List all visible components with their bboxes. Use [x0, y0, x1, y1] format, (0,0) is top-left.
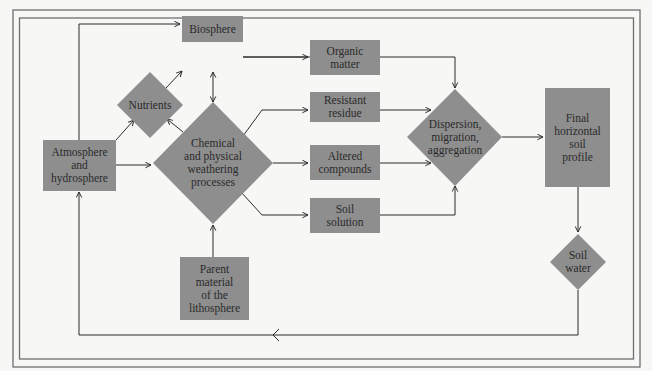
edge-atmosphere-nutrients: [116, 120, 134, 140]
edge-weathering-soilsolution: [241, 192, 308, 215]
node-final-shape: [545, 88, 610, 187]
edge-nutrients-biosphere: [166, 71, 182, 88]
diagram-graphics: [0, 0, 652, 371]
node-biosphere-shape: [182, 16, 243, 42]
node-dispersion-shape: [407, 89, 502, 186]
node-soilsolution-shape: [310, 198, 380, 233]
edge-weathering-nutrients: [167, 119, 183, 132]
node-altered-shape: [310, 145, 380, 180]
soil-formation-diagram: Biosphere Nutrients Atmosphere and hydro…: [0, 0, 652, 371]
edge-soilsolution-dispersion: [380, 186, 455, 215]
node-parent-shape: [180, 257, 249, 320]
edge-organic-dispersion: [380, 57, 455, 88]
edge-weathering-resistant: [243, 110, 308, 136]
node-soilwater-shape: [550, 234, 606, 290]
node-atmosphere-shape: [43, 140, 116, 191]
node-resistant-shape: [310, 92, 380, 122]
node-organic-shape: [310, 40, 380, 75]
